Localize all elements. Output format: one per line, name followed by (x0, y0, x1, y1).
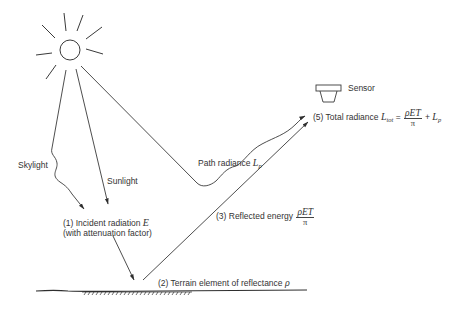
incident-text: (1) Incident radiation (63, 218, 143, 228)
reflected-arrow (143, 122, 308, 280)
total-fraction-denominator: π (404, 119, 422, 128)
reflected-fraction-denominator: π (296, 218, 314, 227)
skylight-arrow (52, 70, 84, 209)
reflected-text: (3) Reflected energy (216, 211, 295, 221)
ground-line (36, 290, 307, 291)
lp-subscript: p (438, 116, 441, 123)
incident-line-2: (with attenuation factor) (63, 228, 152, 238)
path-radiance-subscript: p (258, 162, 261, 169)
sensor-icon (316, 85, 341, 102)
skylight-label: Skylight (18, 160, 48, 170)
sun-icon (36, 13, 103, 79)
terrain-symbol: ρ (285, 277, 290, 288)
incident-arrow (113, 236, 134, 280)
total-radiance-label: (5) Total radiance Ltot = ρETπ + Lp (313, 103, 441, 134)
sunlight-arrow (76, 69, 108, 204)
sunlight-label: Sunlight (107, 176, 138, 186)
sensor-label: Sensor (348, 83, 375, 93)
path-radiance-text: Path radiance (198, 158, 253, 168)
equals-sign: = (393, 112, 403, 122)
reflected-energy-label: (3) Reflected energy ρETπ (216, 204, 315, 228)
radiance-diagram (0, 0, 450, 312)
path-radiance-arrow (81, 66, 305, 186)
terrain-element-label: (2) Terrain element of reflectance ρ (158, 278, 290, 288)
reflected-fraction: ρETπ (296, 207, 314, 227)
incident-symbol: E (143, 217, 149, 228)
incident-radiation-label: (1) Incident radiation E (with attenuati… (63, 218, 152, 238)
total-radiance-text: (5) Total radiance (313, 112, 381, 122)
plus-sign: + (423, 112, 433, 122)
path-radiance-label: Path radiance Lp (198, 158, 262, 171)
incident-line-1: (1) Incident radiation E (63, 218, 152, 228)
terrain-hatching (82, 292, 192, 295)
total-fraction: ρETπ (404, 108, 422, 128)
terrain-text: (2) Terrain element of reflectance (158, 278, 285, 288)
